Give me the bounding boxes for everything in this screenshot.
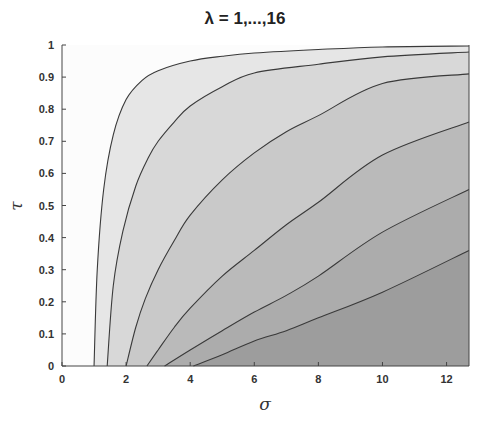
x-tick-label: 12 [440,373,452,385]
y-tick-label: 0.4 [39,232,55,244]
y-tick-label: 0.9 [39,71,54,83]
y-tick-label: 1 [48,39,54,51]
y-tick-label: 0 [48,360,54,372]
chart-canvas: 00.10.20.30.40.50.60.70.80.91024681012 λ… [0,0,491,428]
x-axis-label: σ [259,394,271,414]
y-axis-label: τ [6,201,26,211]
y-tick-label: 0.6 [39,167,54,179]
y-tick-label: 0.5 [39,200,54,212]
y-tick-label: 0.2 [39,296,54,308]
x-tick-label: 6 [251,373,257,385]
filled-bands [62,45,469,366]
x-tick-label: 4 [187,373,194,385]
x-tick-label: 2 [123,373,129,385]
y-tick-label: 0.1 [39,328,54,340]
chart-title: λ = 1,...,16 [205,9,286,28]
x-tick-label: 8 [315,373,321,385]
y-tick-label: 0.3 [39,264,54,276]
y-tick-label: 0.8 [39,103,54,115]
y-tick-label: 0.7 [39,135,54,147]
x-tick-label: 10 [376,373,388,385]
x-tick-label: 0 [59,373,65,385]
